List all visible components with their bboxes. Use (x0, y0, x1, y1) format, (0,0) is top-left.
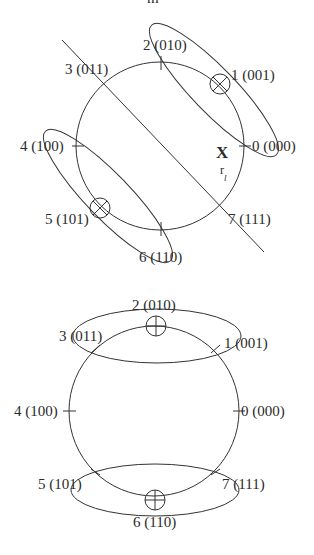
figure: m 0 ( (0, 0, 314, 555)
state-label-5-b: 5 (101) (38, 476, 82, 493)
state-label-0: 0 (000) (252, 138, 296, 155)
state-label-1-b: 1 (001) (224, 335, 268, 352)
circled-plus-icon-6 (145, 490, 165, 510)
state-label-1: 1 (001) (231, 67, 275, 84)
state-label-2-b: 2 (010) (132, 297, 176, 314)
state-label-2: 2 (010) (143, 37, 187, 54)
clipped-top-text: m (147, 0, 159, 6)
state-label-4-b: 4 (100) (14, 403, 58, 420)
state-label-5: 5 (101) (45, 211, 89, 228)
received-point-x: X (216, 143, 229, 162)
diagram-bottom: 0 (000) 1 (001) 2 (010) 3 (011) 4 (100) … (14, 297, 285, 531)
state-label-0-b: 0 (000) (241, 403, 285, 420)
state-label-4: 4 (100) (20, 138, 64, 155)
state-label-7: 7 (111) (228, 211, 271, 228)
circled-plus-icon-2 (146, 316, 166, 336)
circled-cross-icon-1 (210, 74, 230, 94)
state-label-7-b: 7 (111) (222, 476, 265, 493)
state-label-6-b: 6 (110) (133, 514, 176, 531)
state-label-3-b: 3 (011) (59, 328, 102, 345)
state-label-6: 6 (110) (139, 249, 182, 266)
circled-cross-icon-5 (90, 198, 110, 218)
signal-circle-bottom (69, 326, 239, 496)
diagram-top: 0 (000) 1 (001) 2 (010) 3 (011) 4 (100) … (20, 10, 296, 276)
received-point-subscript: l (224, 173, 227, 183)
state-label-3: 3 (011) (65, 61, 108, 78)
tick-3-b (91, 345, 100, 353)
tick-5-b (91, 469, 100, 475)
